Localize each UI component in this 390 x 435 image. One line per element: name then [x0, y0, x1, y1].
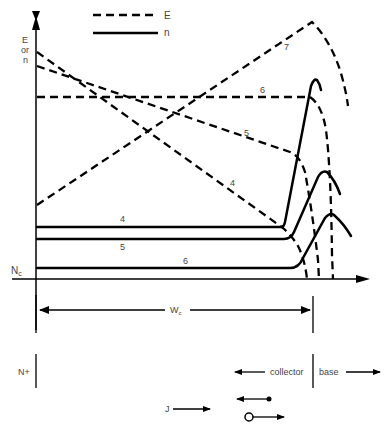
label-e7: 7 [284, 42, 289, 52]
collector-label: collector [270, 367, 304, 377]
y-axis-arrowhead [32, 16, 40, 30]
n-plus-label: N+ [18, 367, 30, 377]
region-markers: N+ collector base [18, 354, 380, 388]
n-curve-5 [37, 172, 340, 239]
base-label: base [319, 367, 339, 377]
y-label-n: n [23, 55, 28, 65]
e-curve-6 [37, 97, 333, 279]
label-e6: 6 [260, 85, 265, 95]
e-curve-7 [37, 22, 348, 205]
carrier-symbols: J [165, 397, 284, 422]
label-n4: 4 [120, 214, 125, 224]
wc-label: Wc [170, 305, 182, 316]
y-label-or: or [21, 45, 29, 55]
x-axis-arrowhead [356, 275, 370, 283]
legend-dashed-label: E [164, 10, 171, 21]
e-curve-4 [37, 52, 307, 279]
hole-circle-icon [245, 413, 253, 421]
legend: E n [93, 10, 171, 38]
y-label-E: E [22, 35, 28, 45]
wc-dimension: Wc [36, 295, 313, 333]
electron-dot-icon [267, 397, 272, 402]
label-e5: 5 [244, 128, 249, 138]
nc-label: Nc [11, 265, 22, 277]
current-label: J [165, 404, 170, 414]
label-e4: 4 [230, 178, 235, 188]
e-field-curves [37, 22, 348, 279]
label-n5: 5 [120, 242, 125, 252]
legend-solid-label: n [164, 27, 170, 38]
diagram-canvas: E n E or n Nc 7 6 5 4 4 5 6 Wc [0, 0, 390, 435]
label-n6: 6 [183, 256, 188, 266]
